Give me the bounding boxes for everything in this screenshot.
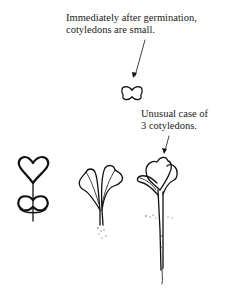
seedling-three-cotyledons-icon [137,157,177,284]
tiny-seedling-icon [122,87,142,100]
arrow-to-tiny-seedling [132,40,145,78]
seedling-with-seed-coat-icon [18,157,48,221]
arrow-to-three-cotyledons [162,136,169,154]
seedling-illustration [0,0,235,289]
seedling-two-cotyledons-icon [79,166,122,239]
